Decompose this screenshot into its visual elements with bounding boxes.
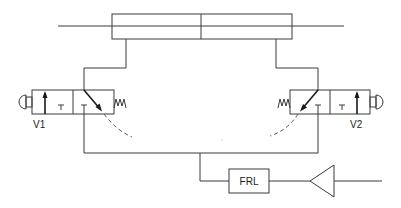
arrow-head-icon: [355, 91, 360, 98]
actuation-dashed-line: [104, 114, 132, 137]
valve-v2: V2: [270, 90, 383, 153]
actuation-dashed-line: [270, 114, 298, 136]
exhaust-block-icon: [58, 105, 64, 110]
air-supply-icon: [310, 165, 334, 197]
arrow-head-icon: [43, 91, 48, 98]
frl-label: FRL: [240, 176, 259, 187]
exhaust-block-icon: [81, 105, 87, 114]
valve-v1: V1: [19, 90, 132, 153]
push-button-icon: [19, 95, 32, 109]
right-port-line: [276, 39, 318, 90]
exhaust-block-icon: [339, 105, 345, 110]
push-button-icon: [370, 95, 383, 109]
spring-icon: [278, 99, 290, 108]
exhaust-block-icon: [315, 105, 321, 114]
valve-v2-label: V2: [350, 119, 363, 130]
spring-icon: [114, 99, 126, 108]
stray-dot: [221, 139, 222, 140]
frl-feed-line: [200, 153, 229, 181]
cylinder: [58, 14, 344, 39]
valve-v1-label: V1: [33, 119, 46, 130]
frl-unit: FRL: [229, 169, 269, 193]
pneumatic-circuit-diagram: V1 V2 FRL: [0, 0, 401, 208]
left-port-line: [84, 39, 126, 90]
